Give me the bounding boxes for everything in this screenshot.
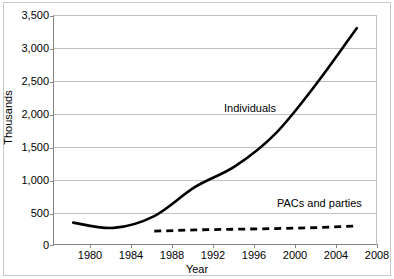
series-label-individuals: Individuals <box>224 103 276 114</box>
data-lines <box>0 0 394 279</box>
series-label-pacs-and-parties: PACs and parties <box>277 198 362 209</box>
series-line-pacs-and-parties <box>154 226 357 231</box>
chart-figure: 3,500 3,000 2,500 2,000 1,500 1,000 500 … <box>0 0 394 279</box>
